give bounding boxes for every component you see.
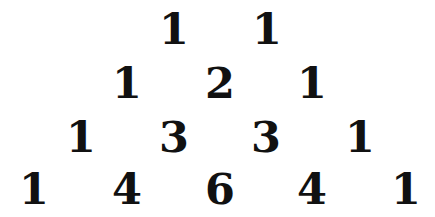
row-4-entry-5: 1: [386, 172, 426, 206]
row-2-entry-1: 1: [107, 66, 147, 100]
row-3-entry-1: 1: [61, 120, 101, 154]
row-4-entry-1: 1: [14, 172, 54, 206]
row-3-entry-3: 3: [246, 120, 286, 154]
row-3-entry-4: 1: [340, 120, 380, 154]
row-3-entry-2: 3: [154, 120, 194, 154]
row-4-entry-2: 4: [107, 172, 147, 206]
row-4-entry-3: 6: [200, 172, 240, 206]
row-1-entry-1: 1: [154, 12, 194, 46]
row-2-entry-2: 2: [200, 66, 240, 100]
row-1-entry-2: 1: [247, 12, 287, 46]
pascal-triangle: 1 1 1 2 1 1 3 3 1 1 4 6 4 1: [0, 0, 435, 217]
row-4-entry-4: 4: [292, 172, 332, 206]
row-2-entry-3: 1: [292, 66, 332, 100]
